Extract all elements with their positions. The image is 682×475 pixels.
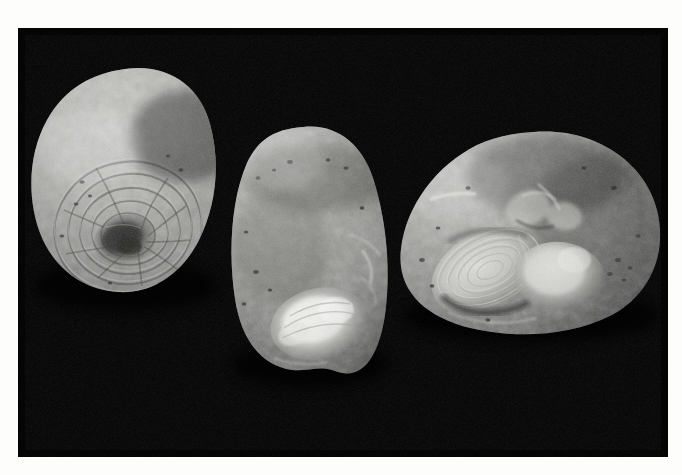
film-grain-overlay: [18, 28, 668, 457]
photo-backdrop: [18, 28, 668, 457]
photo-frame: three potato tubers photograph white pho…: [0, 0, 682, 475]
potatoes-scene: [18, 28, 668, 457]
